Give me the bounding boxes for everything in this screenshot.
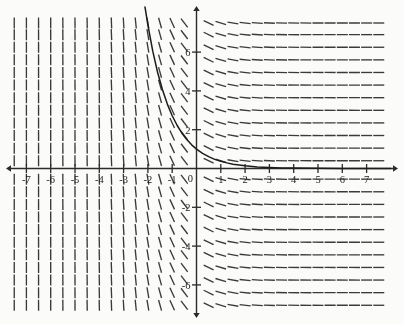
slope-mark [181,187,188,196]
slope-mark [204,177,214,182]
x-tick-label: -3 [119,174,128,185]
slope-mark [135,155,136,166]
slope-mark [181,301,188,310]
slope-mark [216,109,227,112]
slope-mark [123,29,124,40]
slope-mark [170,300,175,310]
slope-mark [228,279,239,281]
slope-mark [135,237,136,248]
slope-mark [252,217,263,218]
slope-mark [159,262,162,273]
slope-mark [204,290,214,295]
slope-mark [159,130,162,141]
slope-mark [204,240,214,245]
slope-mark [240,242,251,243]
slope-mark [228,266,239,268]
slope-mark [135,18,136,29]
slope-mark [240,148,251,149]
slope-mark [147,117,149,128]
slope-mark [123,80,124,91]
slope-mark [228,122,239,124]
slope-mark [170,288,175,298]
slope-mark [159,212,162,223]
slope-mark [204,57,214,62]
slope-mark [228,46,239,48]
slope-mark [170,262,175,272]
slope-mark [204,202,214,207]
slope-mark [204,158,214,163]
slope-mark [170,225,175,235]
slope-mark [159,287,162,298]
slope-mark [204,108,214,113]
slope-mark [181,19,188,28]
slope-mark [147,275,149,286]
slope-mark [135,262,136,273]
slope-mark [252,97,263,98]
slope-mark [228,135,239,137]
slope-mark [159,199,162,210]
slope-mark [170,275,175,285]
slope-mark [252,135,263,136]
slope-mark [204,32,214,37]
slope-mark [252,242,263,243]
slope-mark [135,29,136,40]
slope-mark [181,213,188,222]
slope-mark [135,224,136,235]
slope-mark [147,249,149,260]
slope-mark [216,279,227,282]
y-axis-arrow-up [193,6,199,11]
slope-mark [181,175,188,184]
slope-mark [135,92,136,103]
x-tick-label: -7 [22,174,31,185]
slope-mark [228,22,239,24]
slope-mark [228,216,239,218]
slope-mark [123,42,124,53]
slope-mark [204,95,214,100]
x-tick-label: 2 [242,174,247,185]
x-tick-label: -1 [168,174,177,185]
slope-mark [216,203,227,206]
slope-mark [135,54,136,65]
y-axis-arrow-down [193,313,199,318]
slope-mark [216,304,227,307]
slope-mark [147,105,149,116]
slope-mark [181,30,188,39]
slope-mark [123,143,124,154]
slope-mark [170,42,175,52]
slope-mark [123,105,124,116]
slope-mark [181,106,188,115]
slope-mark [216,21,227,24]
slope-mark [240,305,251,306]
slope-mark [240,47,251,48]
slope-mark [228,292,239,294]
slope-mark [170,199,175,209]
slope-mark [204,189,214,194]
slope-mark [240,254,251,255]
slope-mark [216,134,227,137]
slope-mark [228,84,239,86]
slope-mark [240,292,251,293]
slope-mark [228,59,239,61]
slope-mark [159,186,162,197]
slope-mark [252,34,263,35]
slope-mark [216,121,227,124]
slope-mark [159,42,162,53]
slope-mark [228,34,239,36]
x-tick-label: -4 [95,174,104,185]
y-tick-label: 2 [185,125,190,136]
slope-mark [159,118,162,129]
slope-mark [204,303,214,308]
slope-mark [252,47,263,48]
x-tick-label: -6 [46,174,55,185]
slope-mark [170,250,175,260]
slope-mark [123,287,124,298]
slope-mark [228,191,239,193]
slope-mark [159,224,162,235]
slope-mark [135,199,136,210]
slope-mark [181,225,188,234]
slope-mark [135,42,136,53]
slope-mark [204,265,214,270]
slope-mark [240,59,251,60]
slope-mark [216,253,227,256]
x-tick-label: 4 [291,174,297,185]
